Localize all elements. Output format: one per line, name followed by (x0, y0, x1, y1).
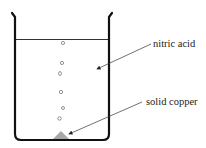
bubble (61, 41, 64, 44)
solid-copper-piece (52, 131, 70, 140)
nitric-acid-pointer-arrow (97, 44, 151, 69)
gas-bubbles (58, 41, 65, 120)
solid-copper-label: solid copper (146, 96, 198, 107)
bubble (58, 117, 61, 120)
bubble (60, 61, 63, 64)
solid-copper-pointer-arrow (69, 102, 142, 134)
bubble (62, 107, 65, 110)
beaker-outline (12, 13, 112, 140)
bubble (59, 72, 62, 76)
beaker-diagram: nitric acid solid copper (0, 0, 206, 148)
nitric-acid-label: nitric acid (153, 38, 196, 49)
bubble (59, 90, 62, 93)
